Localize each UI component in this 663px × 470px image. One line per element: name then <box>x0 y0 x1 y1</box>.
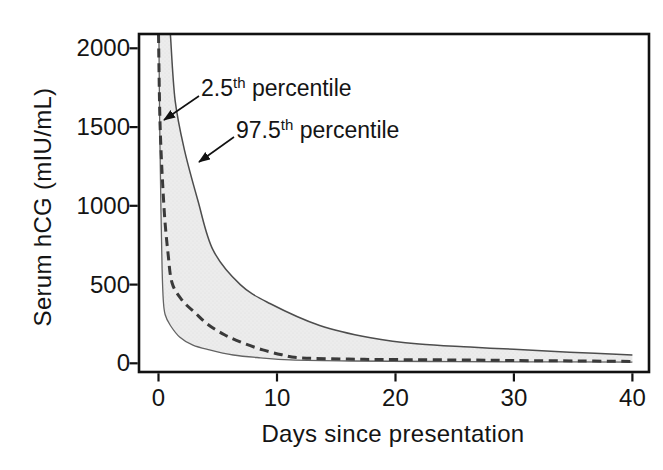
x-tick-label-30: 30 <box>482 385 546 411</box>
x-tick-label-0: 0 <box>127 385 191 411</box>
arrow-to-97-5th-curve-icon <box>199 137 234 162</box>
y-tick-label-1000: 1000 <box>55 193 130 219</box>
y-tick-label-0: 0 <box>55 350 130 376</box>
annotation-rest-text: percentile <box>293 117 399 143</box>
annotation-superscript: th <box>281 116 294 133</box>
y-tick-label-1500: 1500 <box>55 114 130 140</box>
y-tick-label-2000: 2000 <box>55 35 130 61</box>
chart-plot-area <box>0 0 663 470</box>
y-axis-title: Serum hCG (mIU/mL) <box>29 67 57 347</box>
annotation-97-5th-percentile: 97.5th percentile <box>236 115 399 144</box>
x-tick-label-10: 10 <box>245 385 309 411</box>
x-axis-title: Days since presentation <box>243 420 543 448</box>
annotation-superscript: th <box>233 74 246 91</box>
annotation-rest-text: percentile <box>246 75 352 101</box>
annotation-base-text: 2.5 <box>201 75 233 101</box>
annotation-2-5th-percentile: 2.5th percentile <box>201 73 352 102</box>
annotation-base-text: 97.5 <box>236 117 281 143</box>
y-tick-label-500: 500 <box>55 272 130 298</box>
hcg-decline-figure: Serum hCG (mIU/mL) Days since presentati… <box>0 0 663 470</box>
x-tick-label-40: 40 <box>600 385 663 411</box>
x-tick-label-20: 20 <box>363 385 427 411</box>
